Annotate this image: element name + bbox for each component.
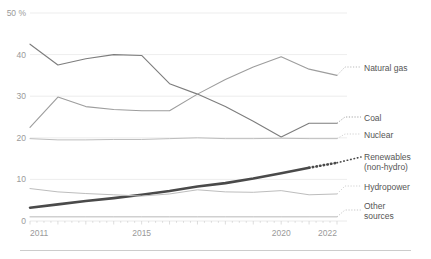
y-tick-label: 50 % [7,8,27,18]
series-line-renewables-projection [309,163,337,168]
y-tick-label: 20 [17,133,27,143]
line-chart: 50 %403020100 2011201520202022 [0,0,431,259]
leader-line [337,67,361,75]
series-leader-lines [337,67,361,217]
x-tick-label: 2011 [30,228,49,238]
y-tick-label: 40 [17,50,27,60]
x-tick-label: 2020 [272,228,291,238]
leader-line-renewables [337,157,361,163]
y-tick-label: 30 [17,91,27,101]
gridlines [30,13,347,221]
leader-line [337,117,361,123]
x-axis-ticks [30,221,337,225]
x-tick-label: 2015 [132,228,151,238]
y-tick-label: 10 [17,174,27,184]
series-lines [30,44,337,217]
series-line-coal [30,44,337,137]
y-tick-label: 0 [21,216,26,226]
chart-container: 50 %403020100 2011201520202022 Natural g… [0,0,431,259]
x-axis-labels: 2011201520202022 [30,228,337,238]
series-line-natural-gas [30,57,337,128]
leader-line [337,210,361,217]
footer-rule [20,250,411,251]
series-line-renewables-non-hydro [30,168,309,208]
x-tick-label: 2022 [318,228,337,238]
leader-line [337,186,361,194]
y-axis-labels: 50 %403020100 [7,8,27,226]
